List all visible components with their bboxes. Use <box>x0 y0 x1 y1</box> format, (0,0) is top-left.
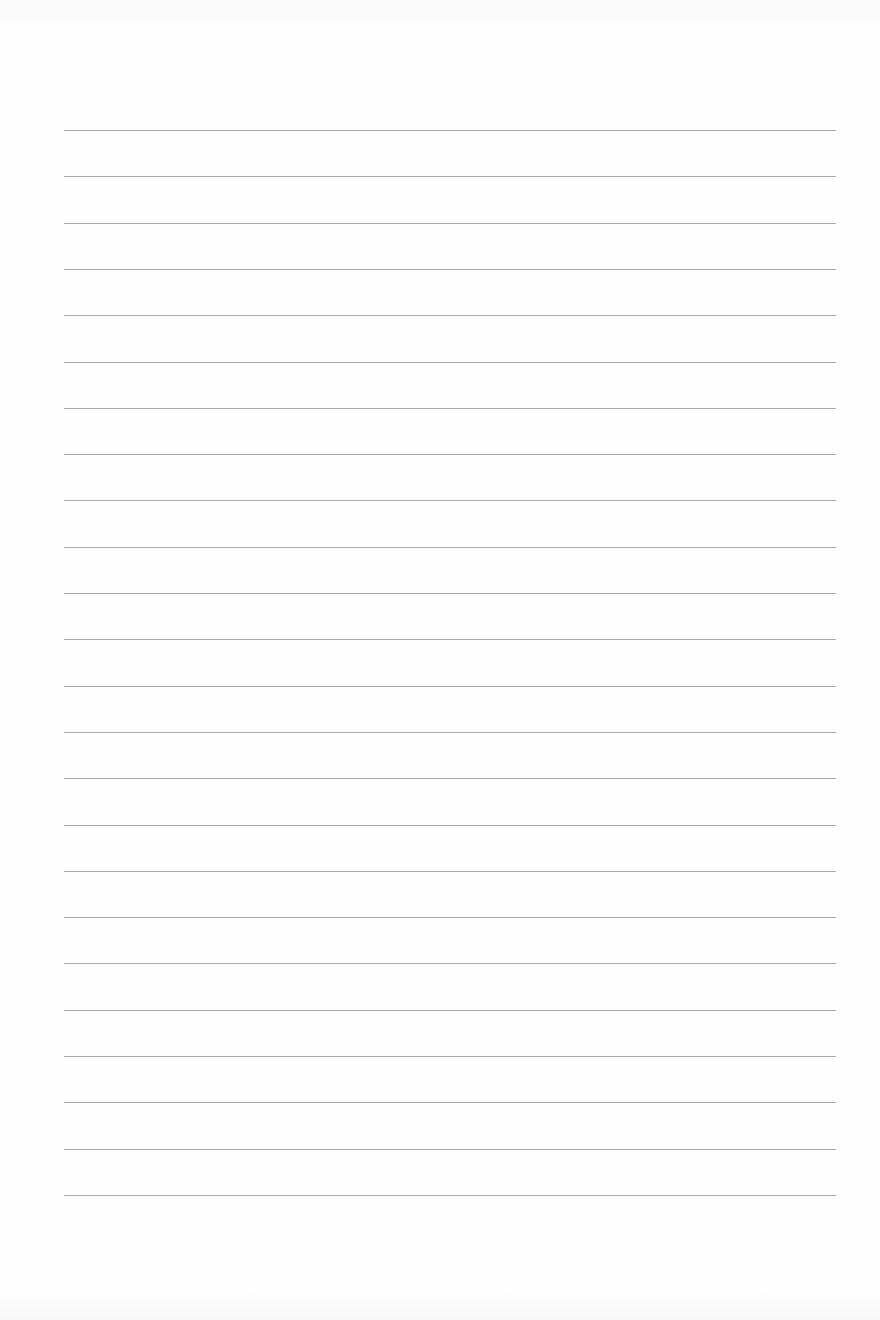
ruled-line <box>64 1195 836 1196</box>
ruled-line <box>64 778 836 779</box>
ruled-line <box>64 963 836 964</box>
ruled-line <box>64 454 836 455</box>
ruled-line <box>64 362 836 363</box>
ruled-line <box>64 686 836 687</box>
ruled-line <box>64 917 836 918</box>
ruled-line <box>64 500 836 501</box>
ruled-line <box>64 871 836 872</box>
ruled-line <box>64 408 836 409</box>
ruled-line <box>64 825 836 826</box>
ruled-line <box>64 315 836 316</box>
ruled-line <box>64 223 836 224</box>
ruled-line <box>64 1056 836 1057</box>
ruled-line <box>64 1010 836 1011</box>
ruled-line <box>64 1149 836 1150</box>
ruled-line <box>64 732 836 733</box>
ruled-line <box>64 176 836 177</box>
ruled-line <box>64 547 836 548</box>
ruled-line <box>64 593 836 594</box>
ruled-line <box>64 639 836 640</box>
ruled-line <box>64 269 836 270</box>
ruled-line <box>64 130 836 131</box>
ruled-line <box>64 1102 836 1103</box>
lined-paper-page <box>0 0 880 1320</box>
